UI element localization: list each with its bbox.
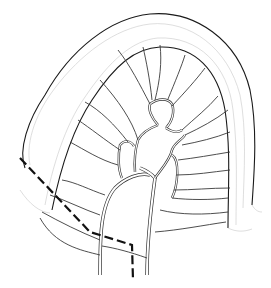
resection-line (20, 158, 133, 280)
bowel-mesentery-illustration (0, 0, 271, 288)
mesenteric-vessels (40, 45, 230, 275)
